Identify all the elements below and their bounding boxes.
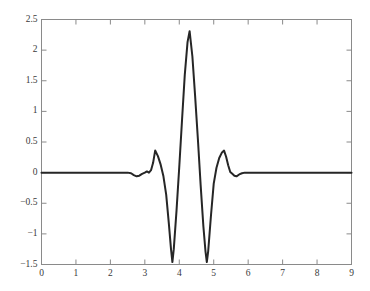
x-tick-label: 7 xyxy=(280,269,285,279)
y-tick-label: 2 xyxy=(33,45,38,55)
chart-figure: −1.5−1−0.500.511.522.5 0123456789 xyxy=(0,0,370,291)
x-tick-label: 0 xyxy=(39,269,44,279)
y-tick-label: −0.5 xyxy=(20,199,37,209)
x-tick-label: 2 xyxy=(108,269,113,279)
plot-frame xyxy=(42,20,352,265)
x-tick-label: 4 xyxy=(177,269,182,279)
line-chart-canvas xyxy=(0,0,370,291)
x-tick-label: 1 xyxy=(74,269,79,279)
y-tick-label: −1.5 xyxy=(20,260,37,270)
x-tick-label: 9 xyxy=(349,269,354,279)
y-tick-label: 1.5 xyxy=(26,76,38,86)
y-tick-label: 0.5 xyxy=(26,137,38,147)
y-tick-label: −1 xyxy=(27,229,37,239)
x-tick-label: 5 xyxy=(211,269,216,279)
y-tick-label: 1 xyxy=(33,107,38,117)
y-tick-label: 0 xyxy=(33,168,38,178)
x-tick-label: 6 xyxy=(246,269,251,279)
x-tick-label: 3 xyxy=(142,269,147,279)
x-tick-label: 8 xyxy=(315,269,320,279)
y-tick-label: 2.5 xyxy=(26,15,38,25)
axes-border xyxy=(42,20,352,265)
